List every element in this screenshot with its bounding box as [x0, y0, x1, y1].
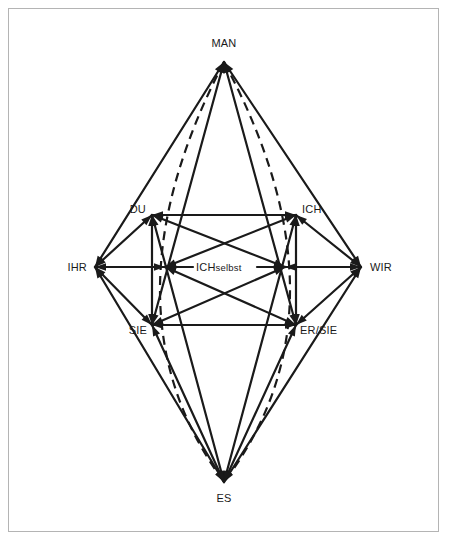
- ichselbst-main: ICH: [196, 261, 216, 273]
- node-label-man: MAN: [211, 37, 236, 49]
- node-label-es: ES: [216, 492, 231, 504]
- edge-man-ersie: [224, 62, 296, 325]
- node-label-du: DU: [130, 203, 146, 215]
- arrowhead-mid_left: [165, 259, 177, 267]
- node-label-ersie: ER/SIE: [300, 324, 337, 336]
- node-label-ichselbst: ICHselbst: [196, 261, 242, 273]
- edge-wir-ich: [296, 215, 361, 267]
- arrowhead-mid_right: [285, 263, 296, 271]
- diagram-canvas: MAN ES IHR WIR DU ICH SIE ER/SIE ICHselb…: [0, 0, 450, 542]
- edge-man-sie: [152, 62, 224, 325]
- edge-sie-midright: [152, 267, 285, 325]
- edge-du-midright: [152, 215, 285, 267]
- svg-text:ICHselbst: ICHselbst: [196, 261, 242, 273]
- edge-ersie-midleft: [165, 267, 296, 325]
- relationship-diagram: MAN ES IHR WIR DU ICH SIE ER/SIE ICHselb…: [0, 0, 450, 542]
- node-label-sie: SIE: [129, 324, 147, 336]
- ichselbst-suffix: selbst: [216, 262, 242, 273]
- node-label-wir: WIR: [370, 261, 392, 273]
- node-label-ihr: IHR: [67, 261, 87, 273]
- node-label-ich: ICH: [302, 203, 322, 215]
- edge-ich-midleft: [165, 215, 296, 267]
